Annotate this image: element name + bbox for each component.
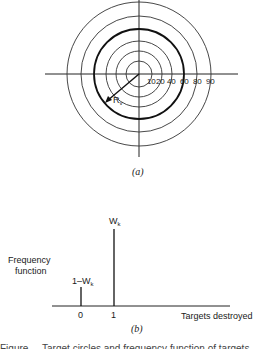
y-axis-label-line2: function bbox=[15, 266, 47, 276]
ring-label-90: 90 bbox=[206, 77, 214, 87]
y-axis-label-line1: Frequency bbox=[8, 255, 51, 265]
x-tick-0: 0 bbox=[78, 310, 83, 320]
ring-label-20: 20 bbox=[156, 77, 164, 87]
ring-label-80: 80 bbox=[193, 77, 201, 87]
radius-label: Rv bbox=[113, 95, 123, 108]
bar-label-wk: Wk bbox=[109, 216, 121, 229]
ring-label-60: 60 bbox=[180, 77, 188, 87]
caption-b: (b) bbox=[131, 323, 143, 334]
x-tick-1: 1 bbox=[111, 310, 116, 320]
caption-a: (a) bbox=[132, 166, 144, 177]
figure-caption-fragment: Figure ... Target circles and frequency … bbox=[0, 342, 263, 349]
ring-label-40: 40 bbox=[167, 77, 175, 87]
x-axis-label: Targets destroyed bbox=[181, 311, 253, 321]
bar-label-one-minus-wk: 1–Wk bbox=[72, 276, 94, 289]
ring-label-10: 10 bbox=[147, 77, 155, 87]
